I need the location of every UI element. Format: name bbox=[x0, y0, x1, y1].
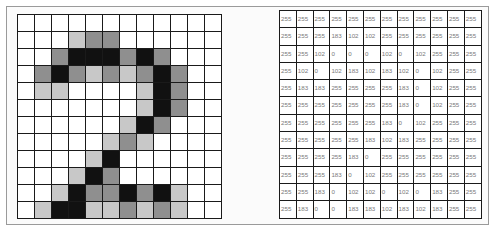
pixel-cell bbox=[120, 15, 137, 32]
value-cell: 183 bbox=[364, 201, 381, 218]
value-cell: 183 bbox=[381, 63, 398, 80]
pixel-cell bbox=[154, 117, 171, 134]
pixel-cell bbox=[35, 100, 52, 117]
pixel-cell bbox=[52, 185, 69, 202]
pixel-cell bbox=[188, 83, 205, 100]
value-cell: 183 bbox=[347, 63, 364, 80]
value-cell: 255 bbox=[280, 201, 297, 218]
value-cell: 255 bbox=[381, 80, 398, 97]
pixel-cell bbox=[188, 151, 205, 168]
pixel-value-matrix: 2552552552552552552552552552552552552552… bbox=[279, 10, 482, 219]
pixel-cell bbox=[120, 83, 137, 100]
value-cell: 255 bbox=[448, 11, 465, 28]
value-cell: 102 bbox=[381, 201, 398, 218]
pixel-cell bbox=[171, 66, 188, 83]
value-cell: 102 bbox=[314, 46, 331, 63]
value-cell: 0 bbox=[347, 167, 364, 184]
pixel-cell bbox=[86, 49, 103, 66]
pixel-cell bbox=[171, 49, 188, 66]
value-cell: 255 bbox=[330, 80, 347, 97]
value-cell: 255 bbox=[448, 80, 465, 97]
pixel-cell bbox=[205, 66, 222, 83]
pixel-cell bbox=[171, 117, 188, 134]
pixel-cell bbox=[120, 185, 137, 202]
value-cell: 255 bbox=[465, 28, 482, 45]
pixel-cell bbox=[154, 168, 171, 185]
value-cell: 255 bbox=[448, 28, 465, 45]
value-cell: 255 bbox=[364, 97, 381, 114]
pixel-cell bbox=[69, 202, 86, 219]
pixel-cell bbox=[171, 15, 188, 32]
value-cell: 255 bbox=[448, 149, 465, 166]
value-cell: 255 bbox=[431, 46, 448, 63]
pixel-cell bbox=[205, 83, 222, 100]
value-cell: 0 bbox=[414, 184, 431, 201]
pixel-cell bbox=[103, 202, 120, 219]
pixel-cell bbox=[18, 32, 35, 49]
pixel-cell bbox=[171, 202, 188, 219]
pixel-cell bbox=[205, 185, 222, 202]
value-cell: 255 bbox=[465, 63, 482, 80]
pixel-cell bbox=[120, 134, 137, 151]
pixel-cell bbox=[35, 202, 52, 219]
value-cell: 255 bbox=[431, 149, 448, 166]
pixel-cell bbox=[120, 49, 137, 66]
pixel-cell bbox=[86, 117, 103, 134]
pixel-cell bbox=[154, 185, 171, 202]
value-cell: 255 bbox=[431, 132, 448, 149]
pixel-cell bbox=[120, 202, 137, 219]
value-cell: 102 bbox=[364, 63, 381, 80]
value-cell: 255 bbox=[314, 11, 331, 28]
pixel-cell bbox=[137, 66, 154, 83]
value-cell: 0 bbox=[398, 46, 415, 63]
pixel-cell bbox=[137, 32, 154, 49]
pixel-cell bbox=[103, 49, 120, 66]
value-cell: 255 bbox=[431, 115, 448, 132]
value-cell: 102 bbox=[330, 63, 347, 80]
pixel-cell bbox=[52, 168, 69, 185]
pixel-cell bbox=[154, 32, 171, 49]
value-cell: 0 bbox=[330, 46, 347, 63]
pixel-cell bbox=[52, 32, 69, 49]
pixel-cell bbox=[103, 185, 120, 202]
value-cell: 102 bbox=[414, 201, 431, 218]
value-cell: 102 bbox=[381, 132, 398, 149]
pixel-cell bbox=[137, 202, 154, 219]
value-cell: 102 bbox=[364, 184, 381, 201]
value-cell: 255 bbox=[465, 149, 482, 166]
value-cell: 183 bbox=[347, 149, 364, 166]
value-cell: 255 bbox=[297, 184, 314, 201]
value-cell: 255 bbox=[297, 115, 314, 132]
pixel-cell bbox=[103, 32, 120, 49]
value-cell: 255 bbox=[381, 28, 398, 45]
pixel-cell bbox=[18, 202, 35, 219]
value-cell: 183 bbox=[297, 201, 314, 218]
pixel-cell bbox=[18, 15, 35, 32]
pixel-cell bbox=[137, 15, 154, 32]
pixel-cell bbox=[52, 83, 69, 100]
pixel-cell bbox=[69, 185, 86, 202]
pixel-cell bbox=[103, 117, 120, 134]
pixel-cell bbox=[69, 32, 86, 49]
pixel-image-grid bbox=[17, 14, 222, 219]
value-cell: 255 bbox=[314, 97, 331, 114]
value-cell: 102 bbox=[347, 184, 364, 201]
pixel-cell bbox=[18, 66, 35, 83]
pixel-cell bbox=[154, 151, 171, 168]
pixel-cell bbox=[86, 100, 103, 117]
pixel-cell bbox=[137, 185, 154, 202]
value-cell: 255 bbox=[280, 115, 297, 132]
pixel-cell bbox=[120, 32, 137, 49]
pixel-cell bbox=[103, 151, 120, 168]
value-cell: 255 bbox=[448, 46, 465, 63]
value-cell: 255 bbox=[398, 28, 415, 45]
value-cell: 255 bbox=[347, 11, 364, 28]
value-cell: 255 bbox=[448, 63, 465, 80]
pixel-cell bbox=[52, 15, 69, 32]
pixel-cell bbox=[69, 15, 86, 32]
value-cell: 0 bbox=[398, 115, 415, 132]
value-cell: 102 bbox=[364, 167, 381, 184]
value-cell: 255 bbox=[280, 80, 297, 97]
value-cell: 255 bbox=[330, 115, 347, 132]
value-cell: 255 bbox=[347, 80, 364, 97]
